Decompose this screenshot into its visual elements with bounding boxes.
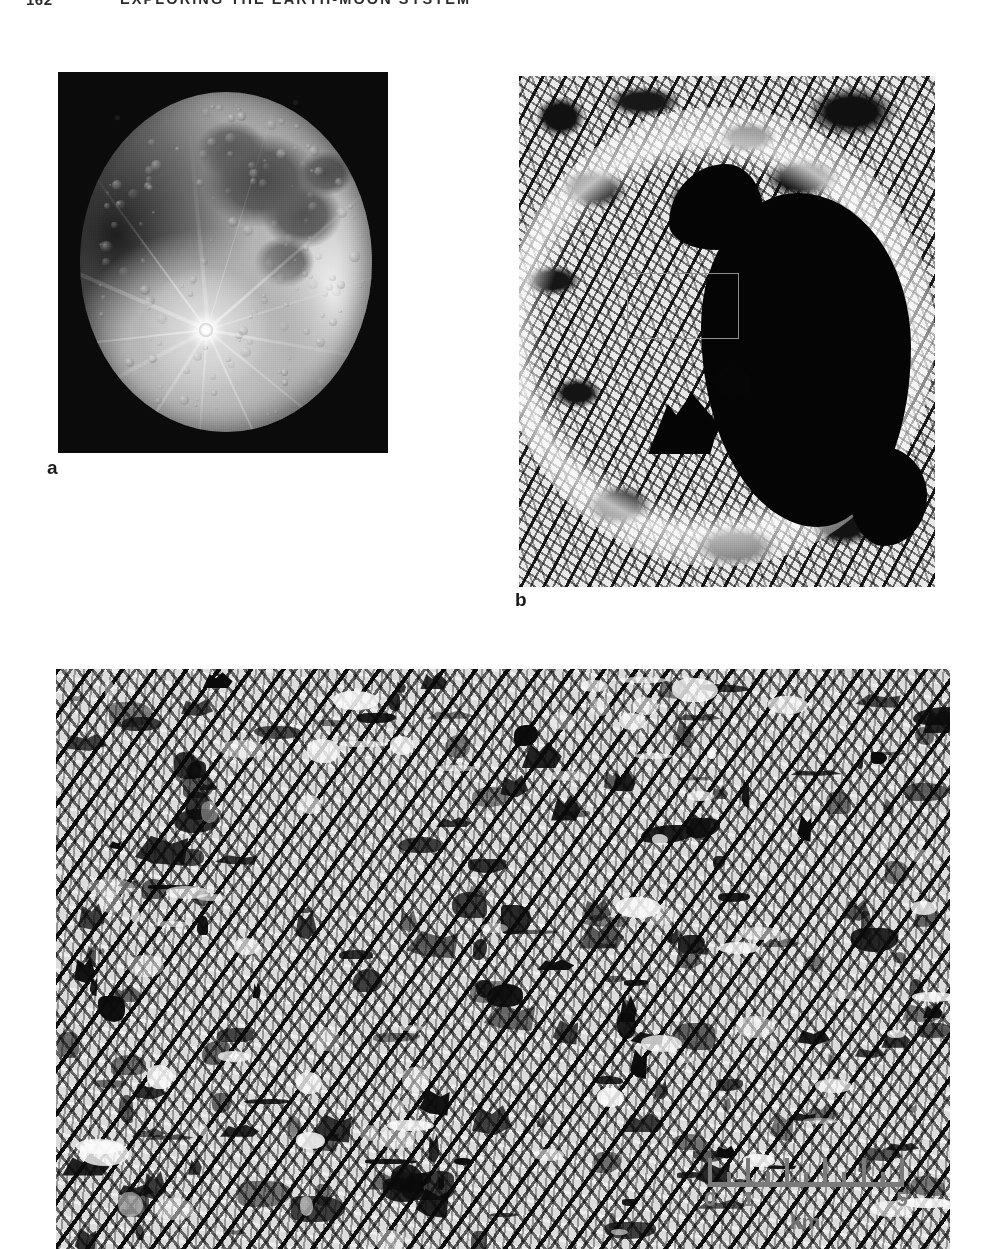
illuminated-rubble-patch: [803, 1118, 836, 1123]
boulder-shadow: [885, 861, 909, 884]
boulder-shadow: [484, 1004, 536, 1031]
boulder-shadow: [99, 947, 105, 953]
illuminated-rubble-patch: [387, 1120, 435, 1131]
scale-bar: 015 km: [708, 1148, 904, 1226]
boulder-shadow: [796, 1029, 830, 1044]
illuminated-rubble-patch: [311, 1027, 340, 1051]
boulder-shadow: [514, 725, 537, 746]
illuminated-rubble-patch: [380, 1129, 416, 1149]
boulder-shadow: [388, 693, 400, 710]
boulder-shadow: [718, 893, 751, 902]
boulder-shadow: [905, 783, 948, 801]
illuminated-rubble-patch: [201, 801, 218, 823]
illuminated-rubble-patch: [105, 680, 114, 701]
boulder-shadow: [217, 1028, 253, 1042]
boulder-shadow: [177, 849, 204, 867]
boulder-shadow: [373, 1033, 420, 1042]
tycho-ray: [186, 126, 210, 331]
figure-panel-a: [58, 72, 388, 453]
boulder-shadow: [244, 1099, 288, 1104]
figure-panel-b: [519, 76, 935, 587]
illuminated-rubble-patch: [339, 741, 387, 748]
scale-bar-major-tick: [823, 1158, 827, 1187]
illuminated-rubble-patch: [87, 879, 135, 895]
boulder-shadow: [295, 912, 317, 939]
boulder-shadow: [57, 1032, 79, 1058]
panel-label-a: a: [47, 457, 58, 479]
illuminated-rubble-patch: [635, 753, 672, 758]
boulder-shadow: [220, 1124, 259, 1137]
boulder-shadow: [551, 794, 581, 821]
boulder-shadow: [907, 1104, 915, 1112]
boulder-shadow: [64, 734, 107, 751]
boulder-shadow: [428, 1134, 440, 1163]
illuminated-rubble-patch: [687, 791, 714, 800]
boulder-shadow: [122, 717, 160, 731]
illuminated-rubble-patch: [911, 849, 929, 863]
tycho-ray: [85, 329, 209, 432]
boulder-shadow: [672, 1134, 706, 1151]
boulder-shadow: [473, 939, 486, 959]
boulder-shadow: [419, 1090, 450, 1116]
boulder-shadow: [789, 770, 842, 776]
boulder-shadow: [624, 980, 648, 985]
page-folio: 162: [26, 0, 53, 8]
boulder-shadow: [630, 1050, 647, 1079]
illuminated-rubble-patch: [672, 678, 718, 702]
tycho-ray: [206, 261, 372, 331]
boulder-shadow: [187, 761, 206, 777]
illuminated-rubble-patch: [887, 1030, 905, 1039]
illuminated-rubble-patch: [739, 927, 782, 940]
boulder-shadow: [111, 1055, 147, 1075]
boulder-shadow: [427, 710, 473, 718]
boulder-shadow: [339, 950, 374, 959]
boulder-shadow: [468, 859, 506, 874]
boulder-shadow: [203, 672, 233, 688]
illuminated-rubble-patch: [680, 1055, 690, 1063]
illuminated-rubble-patch: [333, 691, 379, 710]
boulder-shadow: [197, 916, 208, 935]
boulder-shadow: [109, 841, 121, 849]
boulder-shadow: [215, 855, 257, 865]
boulder-shadow: [254, 726, 301, 739]
boulder-shadow: [454, 1158, 472, 1165]
boulder-shadow: [445, 735, 470, 758]
illuminated-rubble-patch: [131, 909, 141, 923]
illuminated-rubble-patch: [296, 1132, 325, 1149]
illuminated-rubble-patch: [402, 1067, 429, 1091]
illuminated-rubble-patch: [880, 839, 888, 852]
illuminated-rubble-patch: [815, 1079, 852, 1093]
boulder-shadow: [298, 907, 312, 914]
illuminated-rubble-patch: [76, 1139, 123, 1154]
scale-bar-minor-tick: [804, 1172, 808, 1187]
boulder-shadow: [770, 1112, 794, 1141]
scale-bar-major-tick: [708, 1158, 712, 1187]
boulder-shadow: [827, 1052, 835, 1066]
boulder-shadow: [677, 776, 711, 780]
boulder-shadow: [119, 1095, 133, 1122]
illuminated-rubble-patch: [299, 795, 320, 814]
illuminated-rubble-patch: [218, 1051, 251, 1062]
illuminated-rubble-patch: [155, 921, 188, 928]
boulder-shadow: [452, 892, 487, 918]
boulder-shadow: [353, 969, 382, 993]
illuminated-rubble-patch: [736, 1016, 776, 1037]
boulder-shadow: [253, 981, 261, 998]
illuminated-rubble-patch: [641, 1035, 682, 1051]
illuminated-rubble-patch: [707, 750, 716, 759]
boulder-shadow: [188, 1157, 202, 1175]
illuminated-rubble-patch: [597, 1088, 624, 1108]
boulder-shadow: [238, 1181, 292, 1207]
illuminated-rubble-patch: [307, 739, 340, 763]
boulder-shadow: [537, 959, 574, 970]
illuminated-rubble-patch: [198, 1124, 208, 1137]
illuminated-rubble-patch: [534, 1149, 564, 1161]
illuminated-rubble-patch: [911, 901, 937, 915]
boulder-shadow: [391, 1164, 423, 1193]
boulder-shadow: [677, 714, 721, 721]
boulder-shadow: [537, 1114, 547, 1127]
boulder-shadow: [436, 817, 472, 828]
illuminated-rubble-patch: [652, 834, 668, 845]
boulder-shadow: [654, 1080, 668, 1100]
boulder-shadow: [180, 700, 213, 717]
